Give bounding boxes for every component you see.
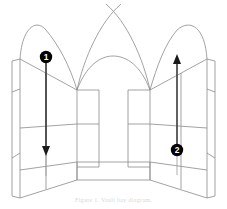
right-side-wall bbox=[150, 59, 207, 198]
vault-diagram-svg: 1 2 bbox=[0, 0, 227, 209]
marker-badge-2-label: 2 bbox=[175, 145, 180, 155]
marker-badge-1-label: 1 bbox=[44, 52, 49, 62]
vault-arches bbox=[20, 4, 207, 90]
annotation-arrow-1 bbox=[42, 63, 50, 176]
gothic-vault-figure: 1 2 Figure 1. Vault bay diagram. bbox=[0, 0, 227, 209]
right-outer-pier-strip bbox=[207, 59, 215, 198]
marker-badge-2[interactable]: 2 bbox=[171, 144, 183, 156]
centre-back-wall bbox=[77, 90, 150, 180]
marker-badge-1[interactable]: 1 bbox=[40, 51, 52, 63]
annotation-arrow-2 bbox=[173, 54, 181, 175]
left-side-wall bbox=[20, 59, 77, 198]
left-outer-pier-strip bbox=[12, 59, 20, 198]
figure-caption: Figure 1. Vault bay diagram. bbox=[0, 196, 227, 204]
